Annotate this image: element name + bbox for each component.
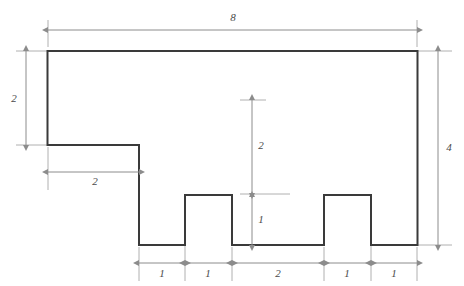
composite-shape-outline (48, 51, 418, 245)
dimension-label-inner-height-2: 2 (258, 139, 264, 151)
dimension-label-inner-height-1: 1 (258, 213, 264, 225)
dimension-label-right-height: 4 (446, 141, 452, 153)
geometry-figure-svg: 8 2 2 4 2 1 1 1 2 1 1 (0, 0, 464, 286)
dimension-label-bottom-seg-2: 1 (205, 267, 211, 279)
dimension-label-left-notch-width: 2 (92, 175, 98, 187)
dimension-label-left-height: 2 (11, 92, 17, 104)
diagram-root: 8 2 2 4 2 1 1 1 2 1 1 (0, 0, 464, 286)
dimension-label-bottom-seg-3: 2 (275, 267, 281, 279)
dimension-label-top-width: 8 (230, 11, 236, 23)
dimension-label-bottom-seg-1: 1 (159, 267, 165, 279)
dimension-label-bottom-seg-5: 1 (391, 267, 397, 279)
extension-lines (16, 20, 452, 281)
dimension-label-bottom-seg-4: 1 (344, 267, 350, 279)
